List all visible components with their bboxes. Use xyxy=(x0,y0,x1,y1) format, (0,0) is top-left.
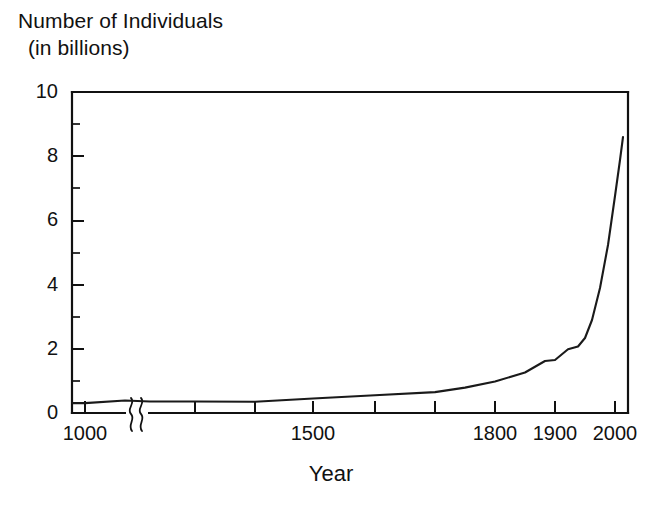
population-curve xyxy=(73,137,623,403)
y-axis-ticks xyxy=(72,92,84,381)
axis-frame xyxy=(72,92,628,413)
population-curve-group xyxy=(73,137,623,403)
x-axis-ticks xyxy=(85,401,615,413)
chart-canvas xyxy=(0,0,662,507)
population-growth-chart: Number of Individuals (in billions) 10 8… xyxy=(0,0,662,507)
x-axis-break-icon xyxy=(126,398,148,431)
